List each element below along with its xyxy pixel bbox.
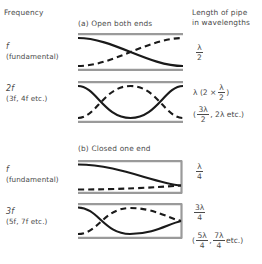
frequency-sub-label: (fundamental) — [6, 175, 59, 185]
alt-tail: , 2λ etc.) — [210, 111, 244, 119]
pipe-svg-open-fundamental — [78, 32, 183, 72]
length-suffix: ) — [226, 89, 229, 97]
pipe-svg-closed-fundamental — [78, 159, 183, 195]
fraction-denominator: 4 — [196, 172, 203, 180]
length-alt-expression: ( 3λ 2 , 2λ etc.) — [193, 106, 244, 124]
pipe-diagram-closed-fundamental — [78, 159, 183, 195]
pipe-svg-open-second — [78, 80, 183, 124]
frequency-main-label: 2f — [6, 84, 47, 94]
displacement-curve-solid — [78, 165, 181, 186]
frequency-sub-label: (3f, 4f etc.) — [6, 94, 47, 104]
section-heading-closed-one-end: (b) Closed one end — [78, 144, 151, 154]
fraction-lambda-over-4: λ 4 — [196, 163, 203, 181]
frequency-sub-label: (fundamental) — [6, 52, 59, 62]
alt-open-paren: ( — [192, 237, 195, 245]
fraction-lambda-over-2: λ 2 — [218, 84, 225, 102]
frequency-main-label: f — [6, 42, 59, 52]
pipe-diagram-open-second — [78, 80, 183, 124]
length-value-open-second: λ (2 × λ 2 ) — [193, 84, 229, 102]
row-label-open-second: 2f (3f, 4f etc.) — [6, 84, 47, 104]
column-header-length: Length of pipe in wavelengths — [192, 8, 250, 27]
frequency-main-label: 3f — [6, 207, 47, 217]
fraction-denominator: 4 — [194, 213, 205, 221]
displacement-curve-dashed — [78, 186, 181, 190]
fraction-denominator: 2 — [218, 93, 225, 101]
row-label-closed-third: 3f (5f, 7f etc.) — [6, 207, 47, 227]
length-alt-expression: ( 5λ 4 , 7λ 4 etc.) — [192, 232, 243, 250]
length-primary-expression: λ (2 × λ 2 ) — [193, 84, 229, 102]
alt-tail: etc.) — [226, 237, 243, 245]
pipe-svg-closed-third — [78, 202, 183, 240]
fraction-denominator: 4 — [213, 241, 224, 249]
fraction-denominator: 2 — [197, 115, 208, 123]
length-value-closed-third: 3λ 4 — [194, 204, 205, 222]
frequency-main-label: f — [6, 165, 59, 175]
length-prefix: λ (2 × — [193, 89, 216, 97]
column-header-frequency: Frequency — [4, 8, 44, 18]
length-value-open-fundamental: λ 2 — [196, 44, 203, 62]
fraction-denominator: 2 — [196, 53, 203, 61]
fraction-5lambda-over-4: 5λ 4 — [196, 232, 207, 250]
pipe-diagram-closed-third — [78, 202, 183, 240]
alt-separator: , — [209, 237, 211, 245]
displacement-curve-dashed — [78, 208, 181, 234]
displacement-curve-dashed — [78, 86, 183, 118]
length-alt-open-second: ( 3λ 2 , 2λ etc.) — [193, 106, 244, 124]
fraction-3lambda-over-2: 3λ 2 — [197, 106, 208, 124]
frequency-sub-label: (5f, 7f etc.) — [6, 217, 47, 227]
fraction-denominator: 4 — [196, 241, 207, 249]
length-alt-closed-third: ( 5λ 4 , 7λ 4 etc.) — [192, 232, 243, 250]
fraction-7lambda-over-4: 7λ 4 — [213, 232, 224, 250]
displacement-curve-dashed — [78, 38, 183, 66]
row-label-closed-fundamental: f (fundamental) — [6, 165, 59, 185]
alt-open-paren: ( — [193, 111, 196, 119]
section-heading-open-both-ends: (a) Open both ends — [78, 19, 152, 29]
pipe-diagram-open-fundamental — [78, 32, 183, 72]
displacement-curve-solid — [78, 86, 183, 118]
fraction-lambda-over-2: λ 2 — [196, 44, 203, 62]
displacement-curve-solid — [78, 208, 181, 235]
fraction-3lambda-over-4: 3λ 4 — [194, 204, 205, 222]
length-value-closed-fundamental: λ 4 — [196, 163, 203, 181]
row-label-open-fundamental: f (fundamental) — [6, 42, 59, 62]
standing-wave-pipe-figure: Frequency Length of pipe in wavelengths … — [0, 0, 262, 264]
